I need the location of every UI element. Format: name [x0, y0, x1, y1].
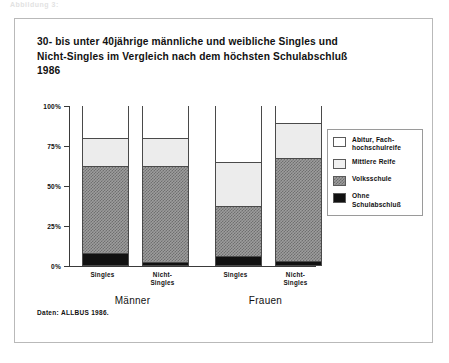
segment-divider: [276, 123, 321, 124]
segment-divider: [216, 206, 261, 207]
legend-item-volksschule: Volksschule: [333, 175, 417, 186]
segment-ohne-schulabschluss: [216, 257, 261, 265]
y-tick-label-50: 50%: [47, 183, 61, 190]
y-tick-25: [64, 226, 69, 227]
bar-label-frauen-singles: Singles: [203, 271, 268, 279]
chart-legend: Abitur, Fach- hochschulreife Mittlere Re…: [327, 129, 423, 216]
segment-ohne-schulabschluss: [143, 263, 188, 265]
segment-divider: [143, 166, 188, 167]
segment-divider: [143, 138, 188, 139]
bar-maenner-nicht-singles[interactable]: [142, 106, 189, 266]
segment-divider: [143, 262, 188, 263]
y-tick-label-100: 100%: [43, 103, 61, 110]
source-note: Daten: ALLBUS 1986.: [37, 309, 109, 316]
cropped-figure-caption: Abbildung 3:: [10, 1, 59, 8]
group-label-frauen: Frauen: [203, 295, 328, 306]
figure-frame: 30- bis unter 40jährige männliche und we…: [14, 18, 433, 343]
segment-mittlere-reife: [83, 139, 128, 168]
y-tick-100: [64, 106, 69, 107]
legend-item-abitur: Abitur, Fach- hochschulreife: [333, 136, 417, 152]
bar-maenner-singles[interactable]: [82, 106, 129, 266]
legend-label-ohne-schulabschluss: Ohne Schulabschluß: [352, 192, 401, 208]
legend-label-volksschule: Volksschule: [352, 175, 392, 183]
segment-ohne-schulabschluss: [276, 262, 321, 265]
bar-frauen-nicht-singles[interactable]: [275, 106, 322, 266]
segment-volksschule: [276, 159, 321, 261]
legend-swatch-mittlere-reife-icon: [333, 159, 346, 169]
bar-label-maenner-nicht-singles: Nicht- Singles: [130, 271, 195, 287]
bar-label-maenner-singles: Singles: [70, 271, 135, 279]
plot-area: 0% 25% 50% 75% 100%: [69, 106, 315, 266]
legend-label-abitur: Abitur, Fach- hochschulreife: [352, 136, 401, 152]
bar-label-frauen-nicht-singles: Nicht- Singles: [263, 271, 328, 287]
legend-swatch-volksschule-icon: [333, 176, 346, 186]
legend-label-mittlere-reife: Mittlere Reife: [352, 158, 396, 166]
segment-abitur: [143, 105, 188, 139]
x-axis-line: [69, 266, 316, 267]
segment-volksschule: [83, 167, 128, 253]
segment-volksschule: [216, 207, 261, 257]
plot-wrapper: 0% 25% 50% 75% 100%: [15, 19, 434, 344]
segment-abitur: [83, 105, 128, 139]
segment-divider: [83, 166, 128, 167]
segment-abitur: [276, 105, 321, 124]
segment-divider: [276, 158, 321, 159]
legend-item-mittlere-reife: Mittlere Reife: [333, 158, 417, 169]
legend-item-ohne-schulabschluss: Ohne Schulabschluß: [333, 192, 417, 208]
segment-volksschule: [143, 167, 188, 263]
segment-mittlere-reife: [216, 163, 261, 208]
segment-divider: [216, 162, 261, 163]
segment-mittlere-reife: [276, 124, 321, 159]
y-tick-label-25: 25%: [47, 223, 61, 230]
segment-ohne-schulabschluss: [83, 254, 128, 265]
y-tick-label-0: 0%: [51, 263, 61, 270]
legend-swatch-ohne-schulabschluss-icon: [333, 193, 346, 203]
segment-abitur: [216, 105, 261, 163]
segment-mittlere-reife: [143, 139, 188, 168]
legend-swatch-abitur-icon: [333, 137, 346, 147]
y-tick-0: [64, 266, 69, 267]
segment-divider: [83, 138, 128, 139]
group-label-maenner: Männer: [70, 295, 195, 306]
y-tick-50: [64, 186, 69, 187]
segment-divider: [83, 253, 128, 254]
segment-divider: [276, 261, 321, 262]
segment-divider: [216, 256, 261, 257]
y-tick-label-75: 75%: [47, 143, 61, 150]
y-tick-75: [64, 146, 69, 147]
bar-frauen-singles[interactable]: [215, 106, 262, 266]
